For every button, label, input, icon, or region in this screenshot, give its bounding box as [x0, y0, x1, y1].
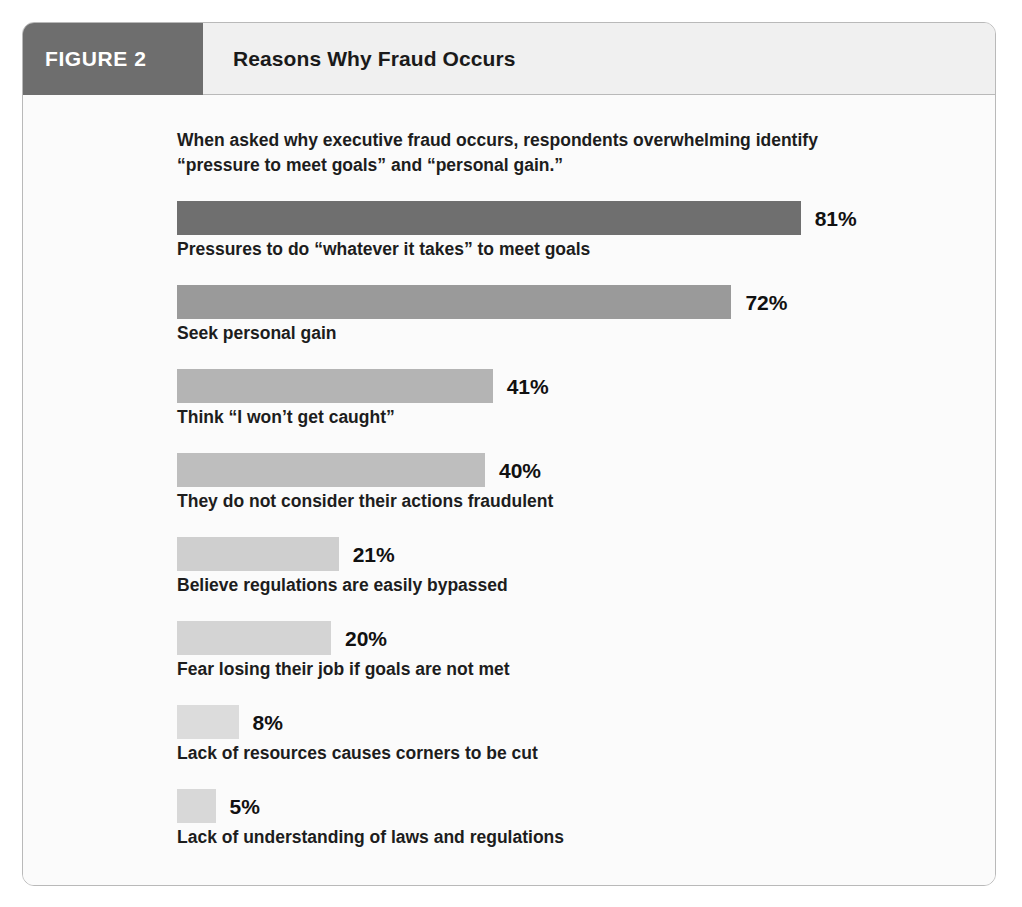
- bar-group: 41%Think “I won’t get caught”: [177, 369, 977, 453]
- bar-group: 5%Lack of understanding of laws and regu…: [177, 789, 977, 873]
- bar-row: 5%: [177, 789, 977, 823]
- bar: [177, 453, 485, 487]
- bar-chart: 81%Pressures to do “whatever it takes” t…: [177, 201, 977, 873]
- bar-value-label: 5%: [230, 796, 260, 817]
- bar: [177, 201, 801, 235]
- bar: [177, 705, 239, 739]
- bar-group: 81%Pressures to do “whatever it takes” t…: [177, 201, 977, 285]
- figure-number-badge: FIGURE 2: [23, 23, 203, 95]
- bar-category-label: They do not consider their actions fraud…: [177, 491, 553, 512]
- bar-value-label: 72%: [745, 292, 787, 313]
- bar-value-label: 20%: [345, 628, 387, 649]
- bar-category-label: Fear losing their job if goals are not m…: [177, 659, 510, 680]
- bar: [177, 789, 216, 823]
- bar-value-label: 41%: [507, 376, 549, 397]
- figure-frame: FIGURE 2 Reasons Why Fraud Occurs When a…: [22, 22, 996, 886]
- bar-category-label: Think “I won’t get caught”: [177, 407, 395, 428]
- bar-category-label: Lack of understanding of laws and regula…: [177, 827, 564, 848]
- bar: [177, 369, 493, 403]
- figure-body: When asked why executive fraud occurs, r…: [23, 95, 995, 885]
- bar-value-label: 8%: [253, 712, 283, 733]
- bar: [177, 537, 339, 571]
- bar-category-label: Lack of resources causes corners to be c…: [177, 743, 538, 764]
- bar-row: 81%: [177, 201, 977, 235]
- figure-title-area: Reasons Why Fraud Occurs: [203, 23, 995, 95]
- bar-value-label: 40%: [499, 460, 541, 481]
- bar-group: 21%Believe regulations are easily bypass…: [177, 537, 977, 621]
- bar-group: 40%They do not consider their actions fr…: [177, 453, 977, 537]
- bar-group: 8%Lack of resources causes corners to be…: [177, 705, 977, 789]
- bar-category-label: Believe regulations are easily bypassed: [177, 575, 508, 596]
- bar-group: 20%Fear losing their job if goals are no…: [177, 621, 977, 705]
- bar-row: 8%: [177, 705, 977, 739]
- bar-category-label: Seek personal gain: [177, 323, 337, 344]
- bar: [177, 621, 331, 655]
- bar-row: 20%: [177, 621, 977, 655]
- figure-header: FIGURE 2 Reasons Why Fraud Occurs: [23, 23, 995, 95]
- intro-paragraph: When asked why executive fraud occurs, r…: [177, 128, 877, 178]
- bar-row: 21%: [177, 537, 977, 571]
- figure-page: FIGURE 2 Reasons Why Fraud Occurs When a…: [0, 0, 1022, 907]
- page-title: Reasons Why Fraud Occurs: [233, 47, 515, 71]
- bar-row: 41%: [177, 369, 977, 403]
- bar-value-label: 21%: [353, 544, 395, 565]
- bar-category-label: Pressures to do “whatever it takes” to m…: [177, 239, 590, 260]
- bar-row: 40%: [177, 453, 977, 487]
- bar-group: 72%Seek personal gain: [177, 285, 977, 369]
- bar-value-label: 81%: [815, 208, 857, 229]
- figure-number-label: FIGURE 2: [45, 47, 147, 71]
- bar: [177, 285, 731, 319]
- bar-row: 72%: [177, 285, 977, 319]
